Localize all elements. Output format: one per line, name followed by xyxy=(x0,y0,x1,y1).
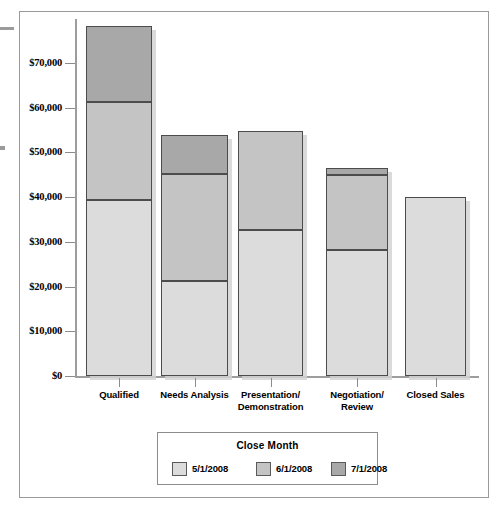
y-axis-tick xyxy=(65,287,75,288)
y-axis-tick xyxy=(65,108,75,109)
y-axis-tick-label: $70,000 xyxy=(0,58,62,68)
y-axis-tick xyxy=(65,376,75,377)
bar-segment[interactable] xyxy=(238,131,303,230)
y-axis-tick xyxy=(65,63,75,64)
bar-segment[interactable] xyxy=(161,174,228,281)
bar-segment[interactable] xyxy=(238,230,303,376)
y-axis-tick xyxy=(65,197,75,198)
y-axis-tick-label: $0 xyxy=(0,371,62,381)
bar-segment[interactable] xyxy=(326,250,388,376)
legend-label: 7/1/2008 xyxy=(351,463,387,474)
bar-segment[interactable] xyxy=(86,102,152,200)
y-axis-tick-label: $40,000 xyxy=(0,192,62,202)
bar-segment[interactable] xyxy=(86,200,152,376)
category-label-5: Closed Sales xyxy=(384,389,488,401)
y-axis-tick xyxy=(65,331,75,332)
bar-2[interactable] xyxy=(161,135,228,376)
legend-swatch xyxy=(256,462,271,476)
bar-segment[interactable] xyxy=(161,135,228,174)
y-axis-tick xyxy=(65,152,75,153)
bar-segment[interactable] xyxy=(326,175,388,250)
legend-title: Close Month xyxy=(158,440,377,451)
category-label-line: Review xyxy=(305,401,409,413)
y-axis-tick xyxy=(65,242,75,243)
legend-label: 6/1/2008 xyxy=(276,463,312,474)
x-axis-tick xyxy=(357,378,358,387)
y-axis-line xyxy=(75,19,77,377)
category-label-line: Closed Sales xyxy=(384,389,488,401)
legend-label: 5/1/2008 xyxy=(192,463,228,474)
bar-segment[interactable] xyxy=(161,281,228,376)
bar-3[interactable] xyxy=(238,131,303,376)
y-axis-tick-label: $60,000 xyxy=(0,103,62,113)
chart-legend: Close Month 5/1/20086/1/20087/1/2008 xyxy=(157,432,378,485)
legend-swatch xyxy=(331,462,346,476)
bar-segment[interactable] xyxy=(86,26,152,102)
y-axis-tick-label: $50,000 xyxy=(0,147,62,157)
x-axis-tick xyxy=(195,378,196,387)
y-axis-tick-label: $10,000 xyxy=(0,326,62,336)
bar-5[interactable] xyxy=(405,197,466,376)
x-axis-tick xyxy=(436,378,437,387)
x-axis-tick xyxy=(119,378,120,387)
bar-4[interactable] xyxy=(326,168,388,376)
y-axis-tick-label: $20,000 xyxy=(0,282,62,292)
y-axis-tick-label: $30,000 xyxy=(0,237,62,247)
bar-segment[interactable] xyxy=(405,197,466,376)
legend-entries: 5/1/20086/1/20087/1/2008 xyxy=(158,461,377,481)
bar-segment[interactable] xyxy=(326,168,388,175)
legend-swatch xyxy=(172,462,187,476)
bar-1[interactable] xyxy=(86,26,152,376)
x-axis-tick xyxy=(271,378,272,387)
